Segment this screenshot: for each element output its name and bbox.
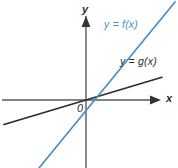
function-graph-figure: y x 0 y = f(x) y = g(x) <box>0 0 178 168</box>
x-axis-arrowhead <box>150 96 161 105</box>
origin-label: 0 <box>77 103 83 114</box>
function-g-label: y = g(x) <box>120 56 157 67</box>
graph-canvas <box>0 0 178 168</box>
x-axis-label: x <box>166 93 172 104</box>
y-axis-label: y <box>82 4 88 15</box>
function-f-label: y = f(x) <box>104 19 138 30</box>
function-g-line <box>4 77 162 124</box>
y-axis-arrowhead <box>82 16 91 27</box>
